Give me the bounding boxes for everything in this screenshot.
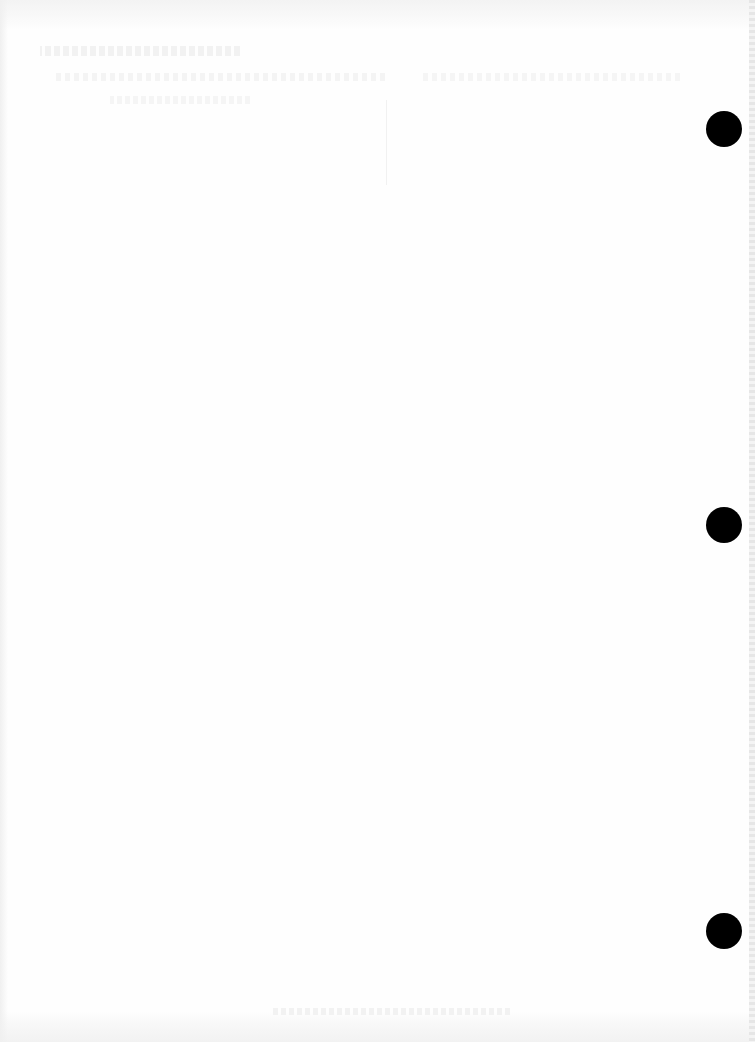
right-page-edge: [749, 0, 755, 1042]
bottom-shadow: [0, 1012, 755, 1042]
show-through-marks: [55, 73, 385, 81]
show-through-line: [386, 100, 387, 185]
top-shadow: [0, 0, 755, 30]
punch-hole-top: [706, 111, 742, 147]
punch-hole-bottom: [706, 913, 742, 949]
show-through-marks: [40, 46, 240, 56]
punch-hole-middle: [706, 507, 742, 543]
show-through-marks: [420, 73, 680, 81]
show-through-marks: [110, 96, 250, 104]
scanned-page: [0, 0, 755, 1042]
left-page-edge: [0, 0, 8, 1042]
show-through-marks: [270, 1008, 510, 1015]
